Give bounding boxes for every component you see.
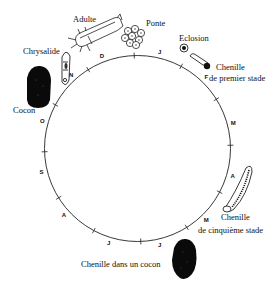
month-tick [217,191,222,194]
month-tick [185,225,188,230]
life-cycle-diagram: JFMAMJJASOND Adulte Ponte Eclosion Cheni… [0,0,275,296]
month-tick [214,98,219,101]
label-eclosion: Eclosion [179,34,209,43]
month-tick [180,64,183,69]
month-tick [92,228,95,233]
month-label: M [231,120,236,126]
month-label: S [39,169,43,175]
month-tick [87,67,90,72]
egg-cluster-icon [121,25,144,48]
caterpillar-cocoon-icon [172,239,197,279]
year-circle [45,56,231,242]
month-label: A [62,212,66,218]
first-instar-caterpillar-icon [190,54,210,69]
month-label: N [69,72,73,78]
label-chrysalide: Chrysalide [23,47,60,56]
month-label: M [204,217,209,223]
label-chenille-premier-stade-1: Chenille [216,63,245,72]
diagram-canvas [0,0,275,296]
hatching-egg-icon [180,44,188,52]
month-tick [56,196,61,199]
label-chenille-cinquieme-stade-1: Chenille [221,213,250,222]
month-label: J [107,240,110,246]
cocoon-icon [27,66,51,108]
month-label: O [40,118,45,124]
month-tick [53,103,58,106]
label-cocon: Cocon [13,106,35,115]
month-label: D [100,53,104,59]
month-ticks [42,53,234,245]
label-chenille-cinquieme-stade-2: de cinquième stade [198,226,263,235]
month-label: J [158,49,161,55]
label-chenille-premier-stade-2: de premier stade [209,74,265,83]
month-label: A [230,173,234,179]
label-ponte: Ponte [146,19,165,28]
chrysalis-icon [62,52,70,84]
label-chenille-dans-un-cocon: Chenille dans un cocon [81,260,161,269]
month-label: F [204,74,208,80]
month-label: J [158,242,161,248]
label-adulte: Adulte [73,15,96,24]
